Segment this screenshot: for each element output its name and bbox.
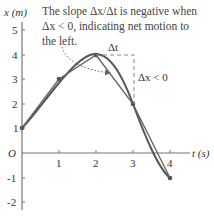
delta-t-label: Δt	[108, 41, 118, 53]
y-tick-label: 5	[12, 24, 18, 36]
y-tick-label: 2	[12, 98, 18, 110]
y-tick-label: 1	[13, 122, 19, 134]
caption-line: The slope Δx/Δt is negative when	[42, 5, 197, 18]
y-tick-label: -1	[7, 172, 16, 184]
x-tick-label: 2	[93, 157, 99, 169]
position-time-graph: 5 4 3 2 1 -1 -2 1 2 3 4 x (m) t (s) O Th…	[0, 0, 214, 219]
x-tick-label: 4	[167, 157, 173, 169]
y-tick-label: 3	[12, 73, 18, 85]
delta-x-label: Δx < 0	[138, 71, 168, 83]
origin-label: O	[8, 147, 16, 159]
caption-line: the left.	[42, 35, 77, 47]
x-tick-label: 3	[130, 157, 136, 169]
y-tick-label: 4	[12, 49, 18, 61]
y-axis-label: x (m)	[3, 6, 27, 19]
x-tick-label: 1	[56, 157, 62, 169]
pointer-arrow	[62, 47, 110, 73]
caption-line: Δx < 0, indicating net motion to	[42, 20, 189, 33]
y-tick-label: -2	[7, 196, 16, 208]
x-axis-label: t (s)	[192, 147, 210, 160]
